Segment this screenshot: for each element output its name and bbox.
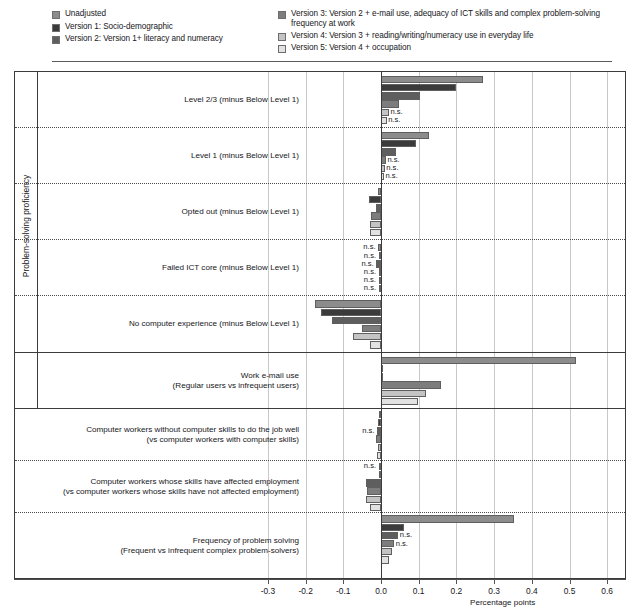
- not-significant-label: n.s.: [386, 172, 398, 180]
- bar[interactable]: [381, 548, 392, 555]
- bar-line: n.s.: [15, 156, 625, 163]
- bar[interactable]: [370, 229, 381, 236]
- x-axis-tick: [570, 579, 571, 584]
- legend-item[interactable]: Version 3: Version 2 + e-mail use, adequ…: [278, 9, 612, 28]
- legend-item-label: Version 3: Version 2 + e-mail use, adequ…: [291, 9, 612, 28]
- bar-line: n.s.: [15, 173, 625, 180]
- bar[interactable]: [367, 487, 381, 494]
- x-axis-tick: [456, 579, 457, 584]
- bar[interactable]: [381, 357, 576, 364]
- bar-line: [15, 300, 625, 307]
- bar[interactable]: [332, 317, 381, 324]
- bar[interactable]: [381, 132, 429, 139]
- bar-group: n.s.: [15, 461, 625, 512]
- not-significant-label: n.s.: [364, 462, 376, 470]
- bar[interactable]: [321, 309, 381, 316]
- bar-line: [15, 381, 625, 388]
- bar-line: n.s.: [15, 540, 625, 547]
- legend-item[interactable]: Version 2: Version 1+ literacy and numer…: [52, 34, 278, 44]
- chart-category-row: Computer workers without computer skills…: [15, 409, 625, 461]
- legend-swatch-icon: [278, 11, 286, 19]
- bar[interactable]: [381, 140, 416, 147]
- bar[interactable]: [366, 479, 381, 486]
- x-axis-tick-label: -0.1: [336, 586, 350, 596]
- bar-line: [15, 548, 625, 555]
- bar-line: n.s.: [15, 244, 625, 251]
- legend-item[interactable]: Version 1: Socio-demographic: [52, 22, 278, 32]
- bar[interactable]: [362, 325, 381, 332]
- bar-line: [15, 204, 625, 211]
- not-significant-label: n.s.: [362, 427, 374, 435]
- legend-item[interactable]: Unadjusted: [52, 9, 278, 19]
- bar-line: [15, 435, 625, 442]
- x-axis-tick: [343, 579, 344, 584]
- not-significant-label: n.s.: [388, 116, 400, 124]
- legend-divider: [52, 61, 612, 62]
- bar-line: n.s.: [15, 463, 625, 470]
- bar-line: [15, 100, 625, 107]
- legend-item[interactable]: Version 4: Version 3 + reading/writing/n…: [278, 31, 612, 41]
- bar[interactable]: [381, 76, 483, 83]
- bar-line: [15, 229, 625, 236]
- chart-category-row: Failed ICT core (minus Below Level 1)n.s…: [15, 240, 625, 296]
- legend-swatch-icon: [278, 33, 286, 41]
- bar-line: [15, 317, 625, 324]
- bar-line: [15, 398, 625, 405]
- chart-category-row: No computer experience (minus Below Leve…: [15, 296, 625, 353]
- bar-line: [15, 196, 625, 203]
- bar[interactable]: [381, 390, 426, 397]
- bar-line: [15, 524, 625, 531]
- x-axis-tick: [381, 579, 382, 584]
- bar-line: [15, 515, 625, 522]
- legend-item[interactable]: Version 5: Version 4 + occupation: [278, 43, 612, 53]
- not-significant-label: n.s.: [400, 531, 412, 539]
- bar[interactable]: [353, 333, 381, 340]
- legend-item-label: Version 1: Socio-demographic: [65, 22, 173, 32]
- bar-line: n.s.: [15, 285, 625, 292]
- bar[interactable]: [370, 341, 381, 348]
- bar-line: [15, 452, 625, 459]
- bar[interactable]: [381, 515, 514, 522]
- not-significant-label: n.s.: [363, 243, 375, 251]
- bar-line: [15, 390, 625, 397]
- bar[interactable]: [381, 84, 456, 91]
- bar[interactable]: [315, 300, 381, 307]
- x-axis-tick: [494, 579, 495, 584]
- bar-group: n.s.: [15, 409, 625, 460]
- bar[interactable]: [381, 556, 389, 563]
- bar[interactable]: [381, 540, 394, 547]
- legend-item-label: Version 5: Version 4 + occupation: [291, 43, 411, 53]
- bar[interactable]: [381, 532, 398, 539]
- bar-line: n.s.: [15, 165, 625, 172]
- bar-line: n.s.: [15, 260, 625, 267]
- bar-line: [15, 471, 625, 478]
- bar[interactable]: [371, 212, 381, 219]
- bar[interactable]: [381, 92, 420, 99]
- legend-item-label: Unadjusted: [65, 9, 106, 19]
- x-axis-tick-label: -0.2: [298, 586, 312, 596]
- bar-group: n.s.n.s.n.s.n.s.n.s.n.s.: [15, 240, 625, 295]
- bar-line: [15, 357, 625, 364]
- bar-line: [15, 92, 625, 99]
- bar[interactable]: [370, 221, 381, 228]
- bar-line: n.s.: [15, 427, 625, 434]
- chart-category-row: Frequency of problem solving (Frequent v…: [15, 513, 625, 578]
- legend-item-label: Version 4: Version 3 + reading/writing/n…: [291, 31, 534, 41]
- x-axis-tick-label: 0.2: [451, 586, 463, 596]
- bar[interactable]: [381, 398, 418, 405]
- bar-group: [15, 184, 625, 239]
- legend: UnadjustedVersion 1: Socio-demographicVe…: [52, 6, 612, 62]
- bar-line: n.s.: [15, 532, 625, 539]
- bar[interactable]: [381, 381, 441, 388]
- bar[interactable]: [369, 196, 381, 203]
- x-axis-tick: [419, 579, 420, 584]
- bar[interactable]: [366, 496, 381, 503]
- bar-line: [15, 419, 625, 426]
- bar-group: [15, 353, 625, 408]
- legend-column-right: Version 3: Version 2 + e-mail use, adequ…: [278, 6, 612, 56]
- x-axis-tick-label: 0.4: [526, 586, 538, 596]
- bar-line: [15, 84, 625, 91]
- bar-line: [15, 504, 625, 511]
- bar[interactable]: [370, 504, 381, 511]
- bar-line: [15, 309, 625, 316]
